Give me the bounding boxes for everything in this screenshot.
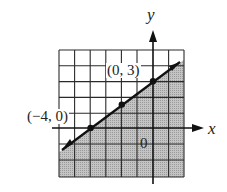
point-0-3 xyxy=(150,78,156,84)
inequality-graph xyxy=(0,0,227,192)
y-axis-label: y xyxy=(147,6,155,23)
point-label-0-3: (0, 3) xyxy=(106,63,141,78)
y-axis-arrow-icon xyxy=(149,30,157,42)
origin-label: 0 xyxy=(140,136,148,151)
x-axis-label: x xyxy=(208,120,216,137)
point-neg4-0 xyxy=(87,125,93,131)
point-label-neg4-0: (−4, 0) xyxy=(26,109,69,124)
x-axis-arrow-icon xyxy=(192,124,204,132)
point-neg2-1-5 xyxy=(119,101,125,107)
